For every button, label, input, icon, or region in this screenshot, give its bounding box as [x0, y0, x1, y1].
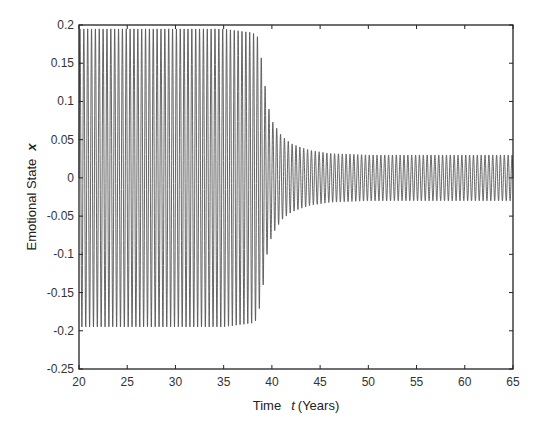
y-tick-label: -0.25 [47, 362, 75, 376]
x-tick-label: 45 [313, 375, 327, 389]
series-line [79, 29, 513, 327]
y-tick-label: -0.15 [47, 286, 75, 300]
x-axis: 20253035404550556065 [72, 25, 520, 389]
y-tick-label: 0.2 [57, 18, 74, 32]
x-tick-label: 65 [506, 375, 520, 389]
y-tick-label: 0.1 [57, 94, 74, 108]
x-axis-label: Timet(Years) [253, 398, 339, 413]
y-tick-label: -0.2 [53, 324, 74, 338]
x-tick-label: 30 [169, 375, 183, 389]
y-tick-label: -0.1 [53, 247, 74, 261]
x-tick-label: 25 [121, 375, 135, 389]
y-tick-label: -0.05 [47, 209, 75, 223]
y-axis-label: Emotional Statex [24, 143, 39, 251]
x-tick-label: 40 [265, 375, 279, 389]
plot-area [79, 29, 513, 327]
line-chart: 20253035404550556065 0.20.150.10.050-0.0… [0, 0, 540, 432]
x-tick-label: 20 [72, 375, 86, 389]
x-tick-label: 35 [217, 375, 231, 389]
x-tick-label: 55 [410, 375, 424, 389]
y-tick-label: 0 [67, 171, 74, 185]
x-tick-label: 50 [362, 375, 376, 389]
y-tick-label: 0.05 [51, 133, 75, 147]
y-tick-label: 0.15 [51, 56, 75, 70]
x-tick-label: 60 [458, 375, 472, 389]
